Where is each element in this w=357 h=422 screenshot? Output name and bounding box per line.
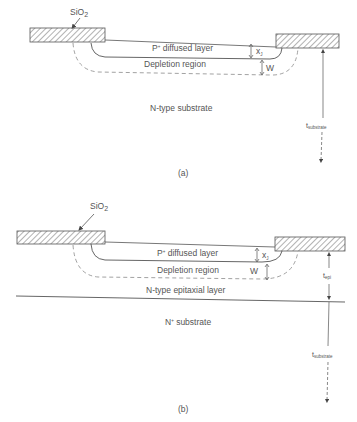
substrate-label-b: N+ substrate	[165, 317, 211, 327]
p-layer-label-b: P+ diffused layer	[157, 248, 218, 258]
depletion-label-b: Depletion region	[157, 265, 219, 275]
caption-b: (b)	[178, 404, 189, 414]
oxide-right-b	[275, 237, 345, 251]
t-substrate-line-b	[328, 302, 329, 346]
panel-a: SiO2 P+ diffused layer xJ Depletion regi…	[30, 7, 339, 178]
oxide-left-a	[30, 28, 105, 42]
p-layer-label-a: P+ diffused layer	[152, 43, 213, 53]
oxide-label-a: SiO2	[70, 7, 88, 18]
oxide-left-b	[17, 231, 105, 244]
depletion-label-a: Depletion region	[144, 59, 206, 69]
t-substrate-arrow-down-a	[321, 132, 322, 161]
oxide-pointer-arrow-a	[73, 18, 80, 27]
t-epi-label-b: tepi	[323, 272, 331, 280]
oxide-right-a	[276, 34, 339, 48]
epi-substrate-interface-b	[16, 296, 345, 302]
oxide-label-b: SiO2	[90, 201, 108, 212]
t-substrate-label-b: tsubstrate	[312, 351, 333, 359]
xj-label-b: xJ	[262, 250, 269, 261]
oxide-pointer-arrow-b	[80, 214, 94, 229]
substrate-label-a: N-type substrate	[150, 103, 213, 113]
t-substrate-label-a: tsubstrate	[306, 122, 327, 130]
surface-line-b	[105, 242, 275, 247]
t-substrate-arrow-down-b	[327, 362, 328, 401]
epi-layer-label-b: N-type epitaxial layer	[146, 285, 226, 295]
pn-junction-diagram: SiO2 P+ diffused layer xJ Depletion regi…	[0, 0, 357, 422]
caption-a: (a)	[178, 168, 189, 178]
w-label-b: W	[250, 266, 258, 276]
panel-b: SiO2 P+ diffused layer xJ Depletion regi…	[16, 201, 345, 414]
xj-label-a: xJ	[256, 46, 263, 57]
w-label-a: W	[266, 63, 274, 73]
